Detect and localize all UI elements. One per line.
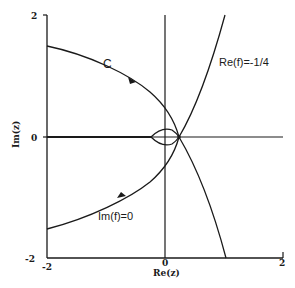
contour-diagram: 2 0 -2 -2 0 2 Re(z) Im(z) C Im(f)=0 Re(f… [0,0,295,288]
im-f-zero-label: Im(f)=0 [98,210,133,222]
contour-c-curve [47,46,179,137]
re-f-level-label: Re(f)=-1/4 [219,56,269,68]
x-tick-label-right: 2 [279,258,285,268]
arrow-icon [117,192,126,198]
x-tick-label-left: -2 [42,262,52,272]
y-tick-label-bottom: -2 [25,254,35,264]
y-tick-label-top: 2 [31,11,37,21]
y-axis-label: Im(z) [11,121,21,148]
saddle-point [177,135,181,139]
y-tick-label-zero: 0 [31,133,37,143]
contour-c-label: C [103,57,112,71]
x-tick-label-zero: 0 [162,258,168,268]
x-axis-label: Re(z) [153,268,180,278]
